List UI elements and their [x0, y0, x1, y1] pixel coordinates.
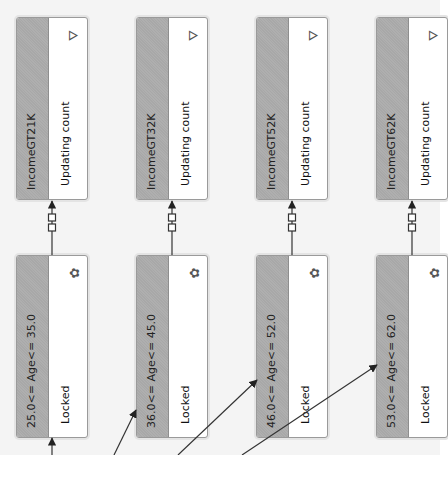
connector-4[interactable]: [409, 201, 416, 255]
connector-2[interactable]: [169, 201, 176, 255]
connector-1[interactable]: [49, 201, 56, 255]
diagram-canvas[interactable]: IncomeGT21K ⛛ Updating count IncomeGT32K…: [0, 0, 440, 455]
connector-layer: [0, 0, 440, 455]
incoming-edge-3[interactable]: [178, 380, 257, 455]
incoming-edge-4[interactable]: [242, 365, 377, 455]
connector-3[interactable]: [289, 201, 296, 255]
incoming-edge-2[interactable]: [114, 410, 136, 455]
